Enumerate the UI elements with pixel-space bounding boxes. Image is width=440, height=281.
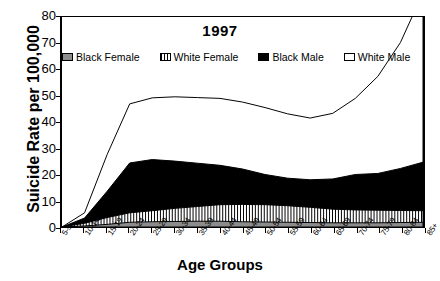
y-tick-label: 30 <box>30 144 56 154</box>
y-tick-label: 20 <box>30 170 56 180</box>
x-tick-mark <box>174 228 175 233</box>
y-tick-mark <box>56 16 61 17</box>
y-tick-label: 10 <box>30 197 56 207</box>
chart-title: 1997 <box>0 22 440 39</box>
legend-item-black-male: Black Male <box>258 51 323 63</box>
x-tick-mark <box>151 228 152 233</box>
suicide-rate-chart: Suicide Rate per 100,000 010203040506070… <box>0 0 440 281</box>
y-tick-mark <box>56 69 61 70</box>
x-tick-label: 85+ <box>425 221 440 237</box>
plot-area <box>60 16 425 228</box>
legend-label-black-male: Black Male <box>272 51 323 63</box>
x-tick-mark <box>311 228 312 233</box>
y-tick-label: 0 <box>30 223 56 233</box>
x-tick-mark <box>220 228 221 233</box>
legend-swatch-black-female-icon <box>62 53 73 61</box>
y-tick-label: 60 <box>30 64 56 74</box>
y-tick-label: 50 <box>30 91 56 101</box>
legend-label-white-male: White Male <box>358 51 411 63</box>
y-tick-label: 40 <box>30 117 56 127</box>
x-tick-mark <box>357 228 358 233</box>
x-tick-mark <box>83 228 84 233</box>
y-tick-mark <box>56 122 61 123</box>
x-tick-mark <box>334 228 335 233</box>
legend-label-white-female: White Female <box>174 51 239 63</box>
x-tick-mark <box>197 228 198 233</box>
y-tick-label: 70 <box>30 38 56 48</box>
legend-swatch-black-male-icon <box>258 53 269 61</box>
y-tick-mark <box>56 149 61 150</box>
legend-swatch-white-male-icon <box>344 53 355 61</box>
legend-item-white-male: White Male <box>344 51 411 63</box>
x-tick-mark <box>243 228 244 233</box>
x-tick-mark <box>288 228 289 233</box>
x-tick-mark <box>128 228 129 233</box>
legend-item-black-female: Black Female <box>62 51 140 63</box>
x-tick-mark <box>402 228 403 233</box>
x-axis-title: Age Groups <box>0 256 440 273</box>
chart-legend: Black Female White Female Black Male Whi… <box>62 49 392 64</box>
legend-swatch-white-female-icon <box>160 53 171 61</box>
x-tick-mark <box>60 228 61 233</box>
y-tick-label: 80 <box>30 11 56 21</box>
y-tick-mark <box>56 175 61 176</box>
x-tick-mark <box>265 228 266 233</box>
x-tick-mark <box>379 228 380 233</box>
legend-label-black-female: Black Female <box>76 51 140 63</box>
y-tick-mark <box>56 96 61 97</box>
y-tick-mark <box>56 202 61 203</box>
x-tick-mark <box>425 228 426 233</box>
x-tick-mark <box>106 228 107 233</box>
y-tick-mark <box>56 43 61 44</box>
legend-item-white-female: White Female <box>160 51 239 63</box>
